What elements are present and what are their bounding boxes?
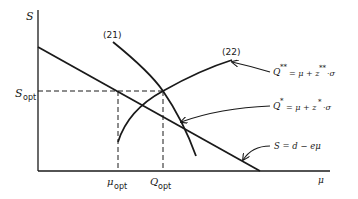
q-double-star-arrow: [232, 62, 270, 72]
x-axis-label: μ: [318, 175, 324, 185]
svg-text:Q: Q: [150, 176, 158, 187]
svg-text:*: *: [318, 98, 322, 106]
s-linear-line: [38, 47, 260, 171]
svg-text:μ: μ: [107, 176, 114, 187]
curve-21-label: (21): [103, 30, 121, 40]
curve-22-label: (22): [222, 47, 240, 57]
svg-text:·σ: ·σ: [327, 69, 336, 78]
svg-text:·σ: ·σ: [323, 103, 332, 112]
q-double-star-equation: Q ** = μ + z ** ·σ Q** = μ + z**·σ: [0, 0, 336, 78]
svg-text:opt: opt: [158, 182, 171, 191]
svg-text:*: *: [280, 97, 284, 105]
curve-21: [113, 42, 196, 156]
svg-text:**: **: [280, 63, 288, 71]
s-line-arrow: [243, 146, 270, 160]
mu-opt-label: μ opt: [107, 176, 127, 191]
svg-text:**: **: [319, 64, 327, 72]
svg-text:= μ + z: = μ + z: [289, 69, 320, 78]
y-axis-label: S: [26, 10, 34, 23]
s-line-equation: S = d − eμ: [274, 141, 321, 151]
diagram-canvas: S μ (21) (22) S opt μ opt Q opt Q ** = μ…: [0, 0, 358, 199]
q-star-arrow: [181, 106, 270, 122]
svg-text:= μ + z: = μ + z: [286, 103, 317, 112]
svg-text:opt: opt: [23, 93, 36, 102]
q-opt-label: Q opt: [150, 176, 171, 191]
s-opt-label: S opt: [15, 87, 36, 102]
svg-text:S: S: [15, 87, 23, 100]
svg-text:opt: opt: [114, 182, 127, 191]
